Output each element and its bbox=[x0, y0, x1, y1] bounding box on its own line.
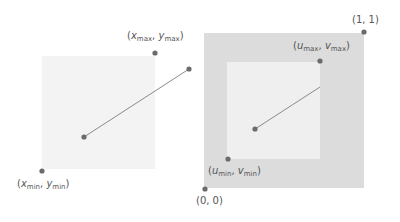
right-point-uv-max bbox=[317, 58, 322, 63]
y-sub: min bbox=[52, 183, 65, 191]
left-point-max bbox=[152, 50, 157, 55]
left-point-min bbox=[39, 168, 44, 173]
left-segment-start bbox=[81, 134, 86, 139]
label-xmin-ymin: (xmin, ymin) bbox=[17, 178, 69, 191]
right-segment-start bbox=[252, 126, 257, 131]
right-point-origin bbox=[202, 186, 207, 191]
y-sub: max bbox=[164, 35, 179, 43]
label-one-one: (1, 1) bbox=[352, 14, 379, 25]
v-sub: min bbox=[244, 170, 257, 178]
uv-viewport-square bbox=[227, 62, 320, 159]
u-sub: min bbox=[218, 170, 231, 178]
label-umin-vmin: (umin, vmin) bbox=[208, 165, 261, 178]
left-clip-square bbox=[42, 56, 155, 169]
right-point-one-one bbox=[361, 29, 366, 34]
x-sub: max bbox=[137, 35, 152, 43]
label-umax-vmax: (umax, vmax) bbox=[293, 40, 350, 53]
left-segment-end bbox=[186, 66, 191, 71]
x-sub: min bbox=[27, 183, 40, 191]
label-xmax-ymax: (xmax, ymax) bbox=[127, 30, 184, 43]
diagram-canvas: (xmax, ymax) (xmin, ymin) (1, 1) (0, 0) … bbox=[0, 0, 400, 222]
v-sub: max bbox=[331, 45, 346, 53]
label-origin: (0, 0) bbox=[196, 195, 223, 206]
u-sub: max bbox=[303, 45, 318, 53]
right-point-uv-min bbox=[225, 156, 230, 161]
